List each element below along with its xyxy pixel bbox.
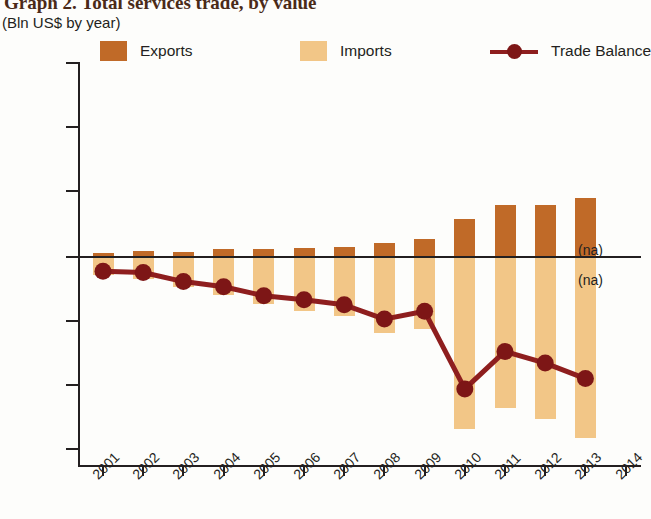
legend-item-trade-balance[interactable]: Trade Balance	[490, 39, 651, 63]
trade-balance-line-icon	[490, 41, 538, 61]
legend-label-imports: Imports	[340, 42, 392, 60]
balance-point-2005	[255, 287, 272, 304]
y-tick-1	[66, 126, 78, 128]
balance-point-2008	[376, 311, 393, 328]
balance-point-2010	[456, 380, 473, 397]
balance-point-2013	[577, 370, 594, 387]
y-tick-neg-1	[66, 384, 78, 386]
y-tick-1-5	[66, 62, 78, 64]
chart-subtitle: (Bln US$ by year)	[2, 14, 120, 31]
page-title: Graph 2. Total services trade, by value	[4, 0, 316, 14]
legend-item-exports[interactable]: Exports	[100, 39, 193, 63]
x-axis-labels: 2001200220032004200520062007200820092010…	[78, 465, 641, 519]
balance-point-2006	[296, 291, 313, 308]
balance-point-2003	[175, 273, 192, 290]
balance-point-2004	[215, 278, 232, 295]
y-tick-neg-1-5	[66, 448, 78, 450]
trade-balance-series	[78, 62, 641, 465]
y-tick-neg-0-5	[66, 320, 78, 322]
balance-point-2012	[537, 355, 554, 372]
balance-point-2011	[497, 343, 514, 360]
imports-swatch-icon	[300, 41, 327, 61]
legend-item-imports[interactable]: Imports	[300, 39, 392, 63]
legend-label-exports: Exports	[140, 42, 193, 60]
balance-point-2007	[336, 296, 353, 313]
exports-swatch-icon	[100, 41, 127, 61]
legend-label-trade-balance: Trade Balance	[551, 42, 651, 60]
balance-point-2001	[95, 263, 112, 280]
balance-point-2002	[135, 264, 152, 281]
y-tick-0-5	[66, 190, 78, 192]
chart-legend: Exports Imports Trade Balance	[100, 39, 640, 63]
balance-point-2009	[416, 303, 433, 320]
plot-area: (na) (na)	[78, 62, 641, 465]
